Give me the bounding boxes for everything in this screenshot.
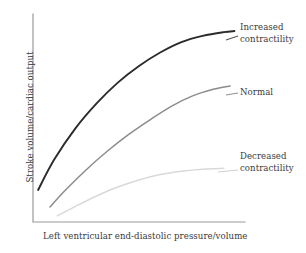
x-axis-title: Left ventricular end-diastolic pressure/…	[43, 231, 247, 241]
leader-line-normal	[226, 93, 238, 95]
y-axis-title: Stroke volume/cardiac output	[25, 37, 35, 197]
series-label-increased-contractility: Increased contractility	[240, 22, 294, 45]
curve-increased-contractility	[38, 31, 234, 190]
leader-lines-group	[218, 36, 238, 172]
series-label-decreased-line2: contractility	[240, 163, 294, 175]
series-label-decreased-contractility: Decreased contractility	[240, 151, 294, 174]
leader-line-decreased	[218, 170, 238, 172]
curves-group	[38, 31, 234, 216]
series-label-normal: Normal	[240, 87, 273, 99]
curve-decreased-contractility	[57, 168, 223, 215]
series-label-normal-line1: Normal	[240, 87, 273, 97]
series-label-increased-line2: contractility	[240, 34, 294, 46]
curve-normal	[50, 86, 230, 207]
series-label-decreased-line1: Decreased	[240, 151, 287, 161]
leader-line-increased	[226, 36, 238, 40]
frank-starling-chart: Increased contractility Normal Decreased…	[0, 0, 306, 253]
series-label-increased-line1: Increased	[240, 22, 284, 32]
